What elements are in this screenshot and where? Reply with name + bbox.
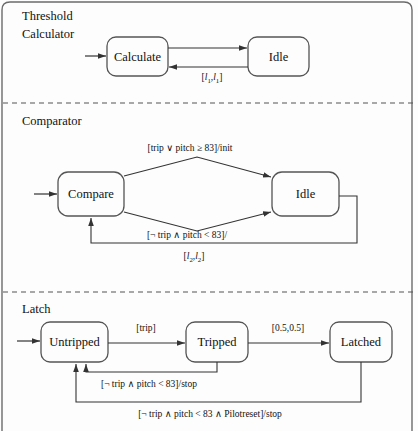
edge-tripped-to-untripped [86, 362, 217, 372]
region-title-threshold-line1: Threshold [22, 10, 73, 23]
state-label-tripped: Tripped [197, 336, 236, 349]
state-label-latched: Latched [341, 336, 381, 349]
region-title-latch: Latch [22, 303, 50, 316]
statechart-diagram: Threshold Calculator Calculate Idle [l1,… [0, 0, 418, 431]
edge-compare-idle-bottom [124, 212, 271, 231]
transition-label-untripped-tripped: [trip] [136, 324, 156, 334]
transition-label-idle-to-calculate: [l1,l1] [202, 73, 223, 83]
region-title-comparator: Comparator [22, 115, 82, 128]
edge-compare-idle-top [124, 157, 271, 177]
transition-label-tripped-untripped: [¬ trip ∧ pitch < 83]/stop [101, 380, 197, 390]
state-label-idle-1: Idle [269, 51, 288, 64]
transition-label-latched-untripped: [¬ trip ∧ pitch < 83 ∧ Pilotreset]/stop [138, 410, 282, 420]
transition-label-idle-compare-loop: [l2,l2] [184, 252, 205, 262]
outer-frame-left [2, 2, 10, 431]
diagram-canvas [0, 0, 418, 431]
transition-label-compare-idle-bottom: [¬ trip ∧ pitch < 83]/ [147, 231, 227, 241]
region-title-threshold-line2: Calculator [22, 28, 74, 41]
state-label-compare: Compare [68, 188, 114, 201]
state-label-calculate: Calculate [114, 51, 161, 64]
state-label-idle-2: Idle [296, 188, 315, 201]
transition-label-compare-idle-top: [trip ∨ pitch ≥ 83]/init [148, 144, 233, 154]
state-label-untripped: Untripped [49, 336, 100, 349]
transition-label-tripped-latched: [0.5,0.5] [272, 324, 304, 334]
